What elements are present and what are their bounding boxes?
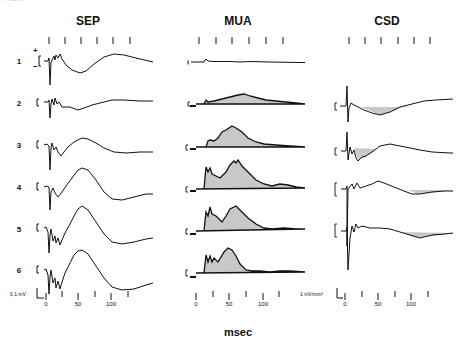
csd-scale-label: 1 mV/mm² [300,291,323,297]
csd-tick-label-100: 100 [401,301,421,307]
mua-top-ticks [199,37,283,44]
csd-tick-label-50: 50 [368,301,388,307]
csd-tick-label-0: 0 [335,301,355,307]
mua-trace-3 [196,126,305,147]
sep-tick-label-0: 0 [36,301,56,307]
csd-trace-2 [340,86,453,122]
csd-trace-5 [341,224,453,270]
mua-trace-2 [196,94,305,104]
sep-trace-4 [44,168,153,210]
sep-trace-1 [44,54,153,85]
csd-sink-fill-3 [354,148,377,160]
sep-top-ticks [49,37,130,44]
csd-bottom-ticks [345,291,428,300]
sep-scale-bar [37,288,44,298]
mua-trace-6 [196,248,305,273]
csd-scale-bar [337,288,343,298]
mua-tick-label-0: 0 [186,301,206,307]
mua-bottom-ticks [196,291,279,300]
sep-tick-label-100: 100 [101,301,121,307]
csd-top-ticks [349,37,430,44]
sep-scale-label: 0,1 mV [10,291,26,297]
sep-trace-3 [44,138,153,170]
x-axis-label: msec [208,326,268,338]
sep-bottom-ticks [46,291,128,300]
mua-tick-label-100: 100 [253,301,273,307]
mua-trace-1 [191,59,305,63]
sep-trace-2 [44,98,153,118]
mua-tick-label-50: 50 [219,301,239,307]
sep-trace-5 [44,206,153,253]
mua-trace-5 [196,206,305,231]
sep-tick-label-50: 50 [68,301,88,307]
sep-trace-6 [44,250,153,294]
mua-trace-4 [196,160,305,189]
